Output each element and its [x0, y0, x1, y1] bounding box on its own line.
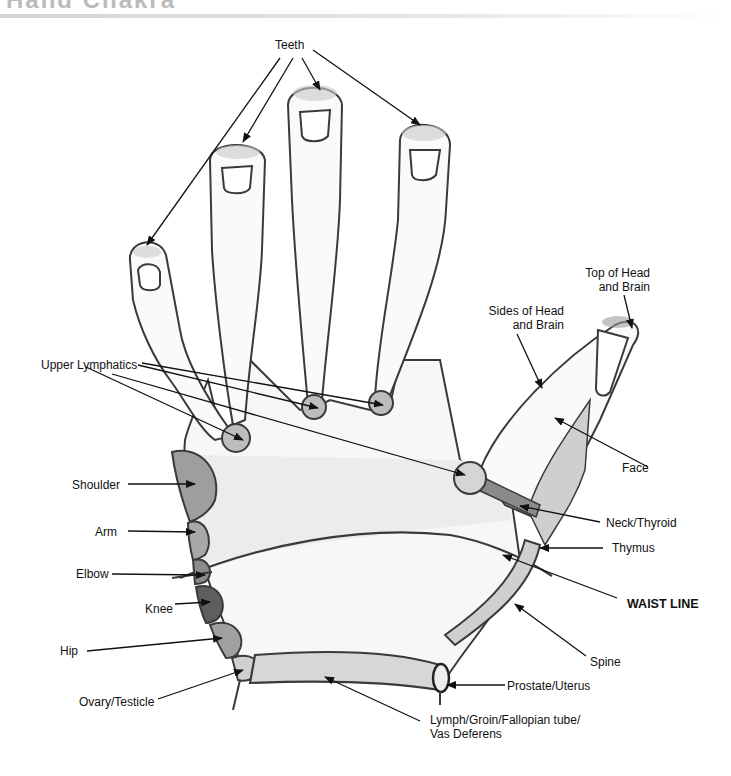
- label-sides-of-head-line1: Sides of Head: [480, 304, 564, 318]
- label-elbow: Elbow: [76, 567, 109, 581]
- lymph-groin-zone: [250, 652, 440, 690]
- label-face: Face: [622, 461, 649, 475]
- fingertip-zones: [133, 85, 634, 328]
- label-lymph-groin-line2: Vas Deferens: [430, 727, 502, 741]
- label-top-of-head-line1: Top of Head: [570, 266, 650, 280]
- label-ovary-testicle: Ovary/Testicle: [79, 695, 154, 709]
- label-top-of-head-line2: and Brain: [570, 280, 650, 294]
- label-upper-lymphatics: Upper Lymphatics: [41, 358, 137, 372]
- hand-diagram: [0, 0, 731, 776]
- prostate-uterus-zone: [433, 664, 449, 692]
- label-lymph-groin-line1: Lymph/Groin/Fallopian tube/: [430, 713, 580, 727]
- label-arm: Arm: [95, 525, 117, 539]
- hip-zone: [210, 623, 241, 658]
- label-waist-line: WAIST LINE: [627, 597, 699, 611]
- label-sides-of-head-line2: and Brain: [480, 318, 564, 332]
- label-teeth: Teeth: [275, 38, 304, 52]
- label-thymus: Thymus: [612, 541, 655, 555]
- label-shoulder: Shoulder: [72, 478, 120, 492]
- label-neck-thyroid: Neck/Thyroid: [606, 516, 677, 530]
- label-knee: Knee: [145, 602, 173, 616]
- label-spine: Spine: [590, 655, 621, 669]
- label-prostate-uterus: Prostate/Uterus: [507, 679, 590, 693]
- arm-zone: [188, 521, 209, 560]
- label-hip: Hip: [60, 644, 78, 658]
